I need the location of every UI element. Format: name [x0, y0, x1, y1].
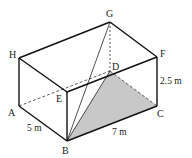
dimension-label-ab: 5 m [27, 123, 42, 133]
cuboid-diagram: G H F D E A C B 2.5 m 5 m 7 m [0, 0, 192, 158]
edge-hg [19, 22, 110, 58]
edge-he [19, 58, 67, 92]
vertex-label-f: F [160, 48, 166, 59]
dimension-label-cf: 2.5 m [160, 76, 182, 86]
vertex-label-g: G [106, 8, 113, 19]
vertex-label-a: A [8, 107, 16, 118]
edge-gf [110, 22, 157, 57]
vertex-label-e: E [56, 93, 62, 104]
vertex-label-h: H [9, 49, 16, 60]
dimension-label-bc: 7 m [112, 127, 127, 137]
vertex-label-b: B [62, 145, 69, 156]
vertex-label-c: C [157, 108, 164, 119]
vertex-label-d: D [112, 61, 119, 72]
